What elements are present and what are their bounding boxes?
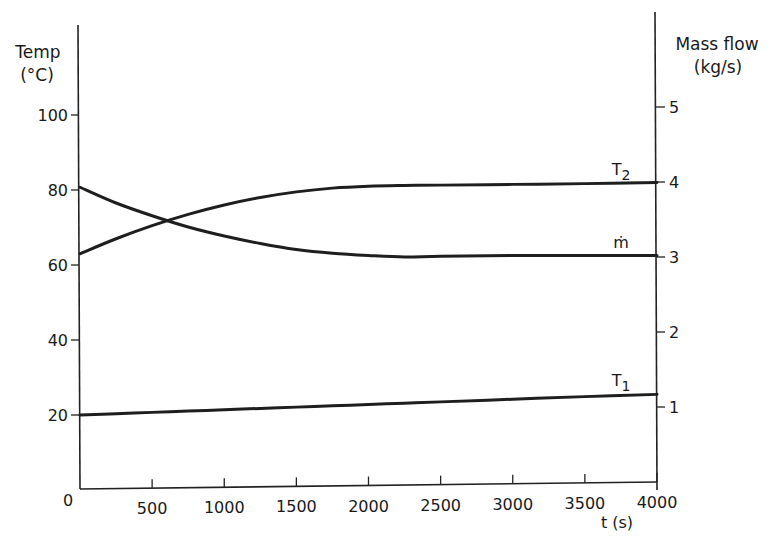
x-tick-label: 1500: [276, 497, 317, 516]
x-tick-label: 0: [63, 491, 73, 510]
x-axis-title: t (s): [601, 513, 633, 532]
series-label-subscript: 2: [621, 167, 630, 183]
y-left-tick-label: 100: [37, 106, 68, 125]
x-tick-label: 2500: [420, 496, 461, 515]
x-tick-label: 500: [137, 499, 168, 518]
axes: [71, 12, 665, 490]
x-tick-label: 3000: [492, 495, 533, 514]
y-right-tick-label: 5: [669, 98, 679, 117]
y-left-title-line1: Temp: [14, 42, 60, 62]
y-left-tick-label: 40: [48, 331, 68, 350]
series-label-t2: T2: [611, 160, 631, 183]
x-tick-label: 3500: [565, 494, 606, 513]
y-left-tick-label: 20: [48, 406, 68, 425]
y-right-tick-label: 1: [669, 398, 679, 417]
chart: 05001000150020002500300035004000t (s)204…: [0, 0, 778, 553]
y-right-tick-label: 3: [669, 248, 679, 267]
series-label-m: ṁ: [613, 233, 629, 252]
curve-t2: [80, 183, 657, 254]
y-right-title-line2: (kg/s): [694, 57, 743, 77]
curves: [80, 183, 657, 416]
x-tick-label: 2000: [348, 497, 389, 516]
labels: 05001000150020002500300035004000t (s)204…: [14, 34, 758, 532]
y-left-tick-label: 80: [48, 181, 68, 200]
right-axis: [655, 12, 657, 490]
y-right-tick-label: 2: [669, 323, 679, 342]
y-right-title-line1: Mass flow: [675, 34, 758, 54]
y-right-tick-label: 4: [669, 173, 679, 192]
left-axis: [78, 25, 80, 489]
x-tick-label: 4000: [637, 493, 678, 512]
y-left-tick-label: 60: [48, 256, 68, 275]
curve-t1: [80, 394, 657, 415]
series-label-t1: T1: [611, 371, 631, 394]
y-left-title-line2: (°C): [20, 65, 54, 85]
series-label-subscript: 1: [621, 378, 630, 394]
x-tick-label: 1000: [204, 498, 245, 517]
